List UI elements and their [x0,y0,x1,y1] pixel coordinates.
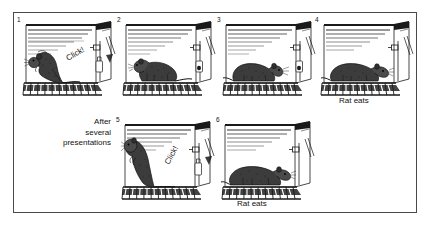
note-line-2: several [19,128,111,139]
panel-number: 6 [216,116,220,123]
panel-6: 6 [215,116,315,208]
panel-4: 4 [314,16,414,104]
skinner-box-illustration: Click! [121,121,215,207]
panel-number: 4 [315,16,319,23]
skinner-box-illustration [222,21,316,103]
note-line-1: After [19,117,111,128]
panel-number: 2 [117,16,121,23]
panel-caption: Rat eats [237,199,267,208]
click-sound-label: Click! [163,144,180,165]
after-several-presentations-note: After several presentations [19,117,111,149]
panel-1: 1 [16,16,116,104]
click-sound-label: Click! [65,45,86,63]
panel-number: 1 [17,16,21,23]
panel-caption: Rat eats [339,96,369,105]
skinner-box-illustration [221,121,315,207]
panel-5: 5 [115,116,215,208]
figure-frame: 1 [13,12,417,213]
panel-2: 2 [116,16,216,104]
skinner-box-illustration [320,21,414,103]
panel-number: 3 [217,16,221,23]
note-line-3: presentations [19,138,111,149]
panel-3: 3 [216,16,316,104]
skinner-box-illustration [122,21,216,103]
skinner-box-illustration: Click! [22,21,116,103]
figure-root: 1 [0,0,432,225]
panel-number: 5 [116,116,120,123]
